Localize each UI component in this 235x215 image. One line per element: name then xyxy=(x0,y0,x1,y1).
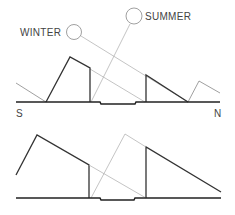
winter-sun-icon xyxy=(67,25,82,40)
dotted-roof-diagonal xyxy=(89,165,146,198)
dotted-roof-outline xyxy=(91,134,146,198)
sawtooth-roof-diagram: WINTER SUMMER S N xyxy=(0,0,235,215)
summer-sun-icon xyxy=(126,8,142,24)
roof-sawtooth-right xyxy=(146,147,221,198)
roof-slope-left xyxy=(16,83,46,102)
top-section: WINTER SUMMER S N xyxy=(16,8,222,119)
bottom-section xyxy=(16,134,221,200)
ground-line xyxy=(16,102,220,104)
roof-sawtooth-left xyxy=(16,135,89,198)
summer-label: SUMMER xyxy=(145,11,191,22)
winter-label: WINTER xyxy=(20,27,61,38)
south-label: S xyxy=(16,108,23,119)
roof-sawtooth-3 xyxy=(188,81,220,102)
winter-sun-ray-lower xyxy=(90,69,145,102)
roof-sawtooth-1 xyxy=(46,57,90,102)
north-label: N xyxy=(214,108,222,119)
roof-sawtooth-2 xyxy=(146,75,188,102)
ground-line-bottom xyxy=(16,198,221,200)
